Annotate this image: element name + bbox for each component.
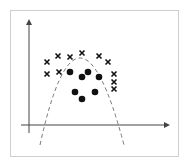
circle-marker <box>79 74 86 81</box>
cross-markers <box>45 51 117 92</box>
scatter-plot <box>0 0 191 167</box>
cross-marker <box>57 70 62 75</box>
circle-markers <box>67 69 103 103</box>
cross-marker <box>106 60 111 65</box>
cross-marker <box>97 54 102 59</box>
cross-marker <box>112 80 117 85</box>
circle-marker <box>67 69 74 76</box>
cross-marker <box>112 72 117 77</box>
cross-marker <box>45 72 50 77</box>
cross-marker <box>45 60 50 65</box>
cross-marker <box>112 87 117 92</box>
cross-marker <box>80 51 85 56</box>
circle-marker <box>96 74 103 81</box>
circle-marker <box>92 89 99 96</box>
circle-marker <box>79 96 86 103</box>
axes <box>21 22 167 133</box>
circle-marker <box>72 89 79 96</box>
cross-marker <box>68 55 73 60</box>
cross-marker <box>56 54 61 59</box>
circle-marker <box>85 69 92 76</box>
